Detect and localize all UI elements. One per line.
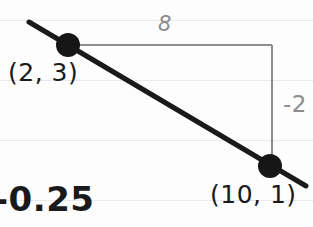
run-label: 8 xyxy=(158,14,172,35)
point-label-2: (10, 1) xyxy=(210,182,297,207)
slope-value-label: -0.25 xyxy=(0,182,95,216)
rise-label: -2 xyxy=(283,93,307,116)
point-marker-1 xyxy=(56,33,80,57)
point-label-1: (2, 3) xyxy=(8,60,78,85)
point-marker-2 xyxy=(258,154,282,178)
slope-diagram-canvas: (2, 3) (10, 1) 8 -2 -0.25 xyxy=(0,0,313,227)
